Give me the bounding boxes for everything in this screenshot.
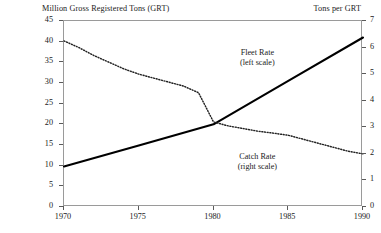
- left-tick-mark: [59, 82, 63, 83]
- fleet-rate-annotation: Fleet Rate(left scale): [212, 48, 302, 69]
- right-tick-label: 4: [370, 96, 374, 104]
- left-tick-mark: [59, 123, 63, 124]
- left-tick-mark: [59, 41, 63, 42]
- left-tick-label: 20: [0, 119, 53, 127]
- x-tick-label: 1985: [273, 213, 301, 221]
- annotation-line: (right scale): [212, 162, 302, 172]
- left-tick-label: 0: [0, 202, 53, 210]
- left-tick-label: 5: [0, 181, 53, 189]
- x-tick-label: 1990: [348, 213, 376, 221]
- x-tick-mark: [287, 206, 288, 210]
- right-tick-mark: [362, 100, 366, 101]
- left-tick-mark: [59, 185, 63, 186]
- left-tick-mark: [59, 165, 63, 166]
- left-axis-title: Million Gross Registered Tons (GRT): [42, 4, 169, 13]
- right-tick-mark: [362, 179, 366, 180]
- right-tick-label: 0: [370, 202, 374, 210]
- annotation-line: Fleet Rate: [212, 48, 302, 58]
- chart-root: Million Gross Registered Tons (GRT) Tons…: [0, 0, 381, 233]
- right-tick-label: 6: [370, 43, 374, 51]
- left-tick-mark: [59, 144, 63, 145]
- left-tick-label: 35: [0, 57, 53, 65]
- right-tick-label: 7: [370, 16, 374, 24]
- catch-rate-annotation: Catch Rate(right scale): [212, 152, 302, 173]
- left-tick-mark: [59, 61, 63, 62]
- left-tick-label: 15: [0, 140, 53, 148]
- left-tick-mark: [59, 103, 63, 104]
- right-tick-mark: [362, 153, 366, 154]
- right-tick-label: 3: [370, 122, 374, 130]
- x-tick-label: 1975: [124, 213, 152, 221]
- x-tick-mark: [138, 206, 139, 210]
- right-tick-mark: [362, 126, 366, 127]
- right-tick-mark: [362, 20, 366, 21]
- x-tick-mark: [63, 206, 64, 210]
- right-tick-mark: [362, 47, 366, 48]
- x-tick-label: 1970: [49, 213, 77, 221]
- x-tick-label: 1980: [199, 213, 227, 221]
- annotation-line: (left scale): [212, 58, 302, 68]
- left-tick-label: 25: [0, 99, 53, 107]
- x-tick-mark: [213, 206, 214, 210]
- x-tick-mark: [362, 206, 363, 210]
- left-tick-label: 40: [0, 37, 53, 45]
- right-axis-title: Tons per GRT: [314, 4, 361, 13]
- left-tick-label: 10: [0, 161, 53, 169]
- right-tick-label: 1: [370, 175, 374, 183]
- right-tick-label: 5: [370, 69, 374, 77]
- annotation-line: Catch Rate: [212, 152, 302, 162]
- right-tick-label: 2: [370, 149, 374, 157]
- left-tick-label: 45: [0, 16, 53, 24]
- left-tick-mark: [59, 20, 63, 21]
- left-tick-label: 30: [0, 78, 53, 86]
- right-tick-mark: [362, 73, 366, 74]
